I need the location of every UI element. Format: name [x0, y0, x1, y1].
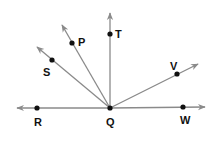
ray-QW [110, 107, 205, 108]
label-T: T [115, 28, 122, 40]
point-W [180, 104, 185, 109]
point-R [34, 105, 39, 110]
geometry-diagram: QRWTPSV [0, 0, 215, 147]
label-Q: Q [106, 116, 115, 128]
points: QRWTPSV [34, 28, 191, 128]
point-P [69, 40, 74, 45]
label-R: R [34, 116, 42, 128]
point-S [49, 57, 54, 62]
label-P: P [78, 36, 85, 48]
label-S: S [43, 66, 50, 78]
point-T [107, 31, 112, 36]
point-V [174, 71, 179, 76]
point-Q [107, 105, 112, 110]
label-W: W [180, 114, 191, 126]
ray-QV [110, 64, 198, 108]
label-V: V [170, 60, 178, 72]
ray-QP [62, 25, 110, 108]
